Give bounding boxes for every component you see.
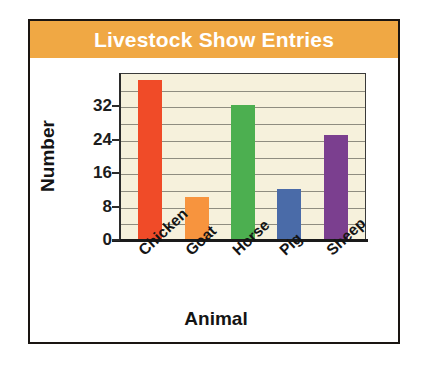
y-axis-title: Number: [37, 120, 59, 192]
y-axis-tick: [112, 172, 120, 174]
bar-chart: Number 08162432 ChickenGoatHorsePigSheep…: [30, 58, 402, 344]
bar-pig: [277, 189, 301, 239]
y-axis-tick: [112, 239, 120, 241]
y-axis-tick: [112, 139, 120, 141]
y-axis-tick-label: 24: [93, 130, 112, 150]
bar-sheep: [324, 135, 348, 239]
chart-title-bar: Livestock Show Entries: [30, 21, 398, 58]
bar-chicken: [138, 80, 162, 239]
chart-card: Livestock Show Entries Number 08162432 C…: [28, 19, 400, 344]
y-axis-tick-label: 16: [93, 163, 112, 183]
bar-series: [121, 74, 365, 239]
y-axis-tick-label: 8: [103, 197, 112, 217]
y-axis-line: [119, 73, 121, 241]
y-axis-tick-label: 0: [103, 230, 112, 250]
x-axis-title: Animal: [30, 308, 402, 330]
bar-horse: [231, 105, 255, 239]
plot-area: [120, 73, 366, 240]
y-axis-tick: [112, 105, 120, 107]
y-axis-tick-label: 32: [93, 96, 112, 116]
page-title: Livestock Show Entries: [94, 28, 334, 52]
y-axis-tick: [112, 206, 120, 208]
